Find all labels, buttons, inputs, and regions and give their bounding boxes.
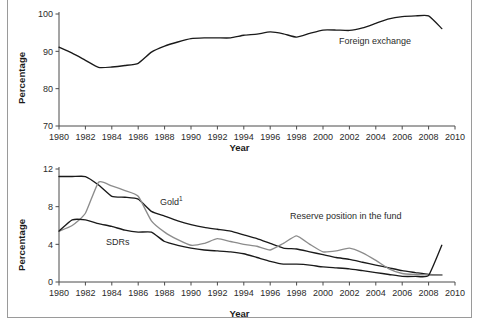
x-tick-label: 2010	[445, 288, 465, 298]
top-chart-plot: 7080901001980198219841986198819901992199…	[0, 0, 479, 155]
series-label-gold: Gold1	[160, 195, 183, 207]
figure-container: 7080901001980198219841986198819901992199…	[0, 0, 479, 325]
bottom-chart-plot: 0481219801982198419861988199019921994199…	[0, 155, 479, 325]
series-label-gold-footnote: 1	[179, 195, 183, 202]
x-tick-label: 1986	[128, 132, 148, 142]
x-tick-label: 2004	[366, 132, 386, 142]
x-tick-label: 2000	[313, 288, 333, 298]
y-tick-label: 0	[48, 277, 53, 287]
series-label-sdrs: SDRs	[106, 237, 130, 247]
x-tick-label: 1980	[49, 132, 69, 142]
y-tick-label: 70	[43, 121, 53, 131]
x-tick-label: 1984	[102, 288, 122, 298]
series-label-gold-text: Gold	[160, 197, 179, 207]
x-tick-label: 1998	[287, 288, 307, 298]
x-tick-label: 1996	[260, 132, 280, 142]
x-tick-label: 2006	[392, 132, 412, 142]
y-tick-label: 12	[43, 164, 53, 174]
x-tick-label: 1988	[155, 288, 175, 298]
x-tick-label: 1992	[207, 288, 227, 298]
x-tick-label: 1990	[181, 288, 201, 298]
x-tick-label: 2008	[419, 132, 439, 142]
x-tick-label: 1994	[234, 132, 254, 142]
series-label-reserve-position: Reserve position in the fund	[290, 211, 402, 221]
top-y-axis-title: Percentage	[16, 52, 27, 104]
bottom-x-axis-title: Year	[0, 308, 479, 319]
x-tick-label: 2002	[339, 288, 359, 298]
x-tick-label: 1980	[49, 288, 69, 298]
y-tick-label: 8	[48, 202, 53, 212]
y-tick-label: 100	[38, 9, 53, 19]
x-tick-label: 1990	[181, 132, 201, 142]
x-tick-label: 2010	[445, 132, 465, 142]
x-tick-label: 1986	[128, 288, 148, 298]
x-tick-label: 2006	[392, 288, 412, 298]
x-tick-label: 2008	[419, 288, 439, 298]
x-tick-label: 1982	[75, 288, 95, 298]
x-tick-label: 1996	[260, 288, 280, 298]
x-tick-label: 1992	[207, 132, 227, 142]
top-chart-panel: 7080901001980198219841986198819901992199…	[0, 0, 479, 155]
x-tick-label: 1984	[102, 132, 122, 142]
x-tick-label: 1998	[287, 132, 307, 142]
series-line	[59, 176, 442, 275]
series-line	[59, 219, 442, 276]
bottom-y-axis-title: Percentage	[16, 219, 27, 271]
x-tick-label: 2002	[339, 132, 359, 142]
x-tick-label: 1988	[155, 132, 175, 142]
bottom-chart-panel: 0481219801982198419861988199019921994199…	[0, 155, 479, 325]
top-x-axis-title: Year	[0, 142, 479, 153]
y-tick-label: 90	[43, 47, 53, 57]
x-tick-label: 1994	[234, 288, 254, 298]
x-tick-label: 2004	[366, 288, 386, 298]
x-tick-label: 2000	[313, 132, 333, 142]
x-tick-label: 1982	[75, 132, 95, 142]
y-tick-label: 80	[43, 84, 53, 94]
series-label-foreign-exchange: Foreign exchange	[339, 36, 411, 46]
y-tick-label: 4	[48, 240, 53, 250]
